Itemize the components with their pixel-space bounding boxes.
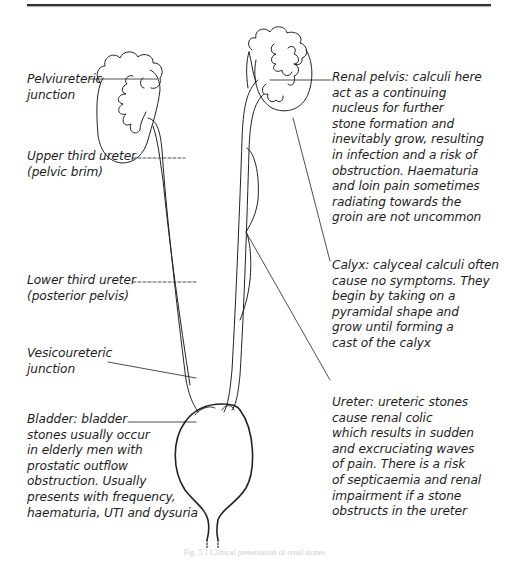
label-ureter: Ureter: ureteric stones cause renal coli…	[332, 395, 481, 520]
label-renal-pelvis: Renal pelvis: calculi here act as a cont…	[332, 70, 484, 226]
leader-lines	[90, 79, 331, 422]
label-pelviureteric-junction: Pelviureteric junction	[27, 72, 102, 103]
left-adrenal-gland	[97, 52, 162, 89]
bladder-inner-ureter-openings	[195, 406, 234, 416]
right-adrenal-gland	[249, 27, 307, 65]
right-calyces	[262, 44, 298, 102]
urethra-dashes	[207, 540, 218, 548]
left-kidney	[97, 52, 162, 163]
label-upper-third-ureter: Upper third ureter (pelvic brim)	[27, 149, 136, 180]
figure-caption: Fig. 5.1 Clinical presentation of renal …	[0, 548, 509, 557]
label-lower-third-ureter: Lower third ureter (posterior pelvis)	[27, 273, 136, 304]
label-calyx: Calyx: calyceal calculi often cause no s…	[332, 258, 499, 352]
right-ureter	[224, 80, 264, 412]
right-ureter-calculus-bulge	[240, 148, 258, 320]
left-calyces	[118, 76, 146, 133]
label-bladder: Bladder: bladder stones usually occur in…	[27, 412, 198, 521]
leader-vesicoureteric	[108, 362, 196, 378]
right-kidney	[247, 27, 312, 111]
leader-calyx	[293, 118, 330, 261]
left-ureter	[148, 118, 198, 412]
leader-ureter	[246, 232, 330, 380]
label-vesicoureteric-junction: Vesicoureteric junction	[27, 346, 112, 377]
